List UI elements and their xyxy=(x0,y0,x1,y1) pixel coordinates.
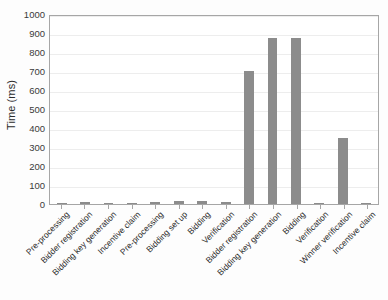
bar-slot xyxy=(120,16,143,204)
bar xyxy=(361,203,371,205)
bar-slot xyxy=(191,16,214,204)
bar xyxy=(104,203,114,205)
bar xyxy=(268,38,278,204)
bar-slot xyxy=(284,16,307,204)
bar-slot xyxy=(50,16,73,204)
y-axis-tick-label: 500 xyxy=(29,105,45,115)
y-axis-title-label: Time (ms) xyxy=(5,80,17,130)
y-axis-tick-labels: 01002003004005006007008009001000 xyxy=(18,15,48,205)
plot-area xyxy=(49,15,379,205)
y-axis-tick-label: 200 xyxy=(29,162,45,172)
y-axis-tick-label: 100 xyxy=(29,181,45,191)
y-axis-tick-label: 900 xyxy=(29,29,45,39)
bar-slot xyxy=(73,16,96,204)
bar xyxy=(80,202,90,204)
y-axis-tick-label: 600 xyxy=(29,86,45,96)
y-axis-tick-label: 1000 xyxy=(24,10,45,20)
bar-slot xyxy=(144,16,167,204)
bar-slot xyxy=(214,16,237,204)
bar-chart: Time (ms) 010020030040050060070080090010… xyxy=(0,0,388,300)
bar-slot xyxy=(261,16,284,204)
bar xyxy=(291,38,301,204)
y-axis-tick-label: 300 xyxy=(29,143,45,153)
bar-slot xyxy=(354,16,377,204)
bar-slot xyxy=(331,16,354,204)
bar xyxy=(127,203,137,205)
y-axis-tick-label: 800 xyxy=(29,48,45,58)
bar xyxy=(150,202,160,204)
bar xyxy=(244,71,254,204)
bar xyxy=(174,201,184,204)
x-axis-category-labels: Pre-processingBidder registrationBidding… xyxy=(49,210,379,300)
bar-slot xyxy=(97,16,120,204)
bar-slot xyxy=(237,16,260,204)
bar-slot xyxy=(167,16,190,204)
bar xyxy=(338,138,348,205)
y-axis-tick-label: 400 xyxy=(29,124,45,134)
bar-slot xyxy=(308,16,331,204)
bar xyxy=(314,203,324,205)
bar-series xyxy=(50,16,378,204)
y-axis-tick-label: 0 xyxy=(40,200,45,210)
bar xyxy=(221,202,231,204)
bar xyxy=(57,203,67,205)
y-axis-tick-label: 700 xyxy=(29,67,45,77)
bar xyxy=(197,201,207,204)
